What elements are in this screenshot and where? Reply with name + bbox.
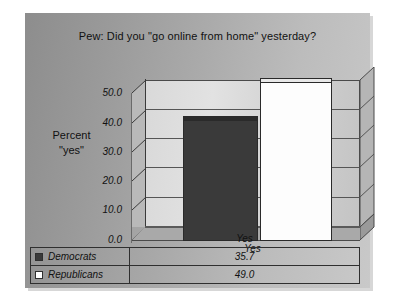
legend-item-republicans[interactable]: Republicans bbox=[31, 266, 130, 284]
table-header-row: Yes bbox=[31, 230, 360, 248]
table-header-category: Yes bbox=[130, 230, 360, 248]
value-republicans-yes: 49.0 bbox=[130, 266, 360, 284]
y-axis-ticks bbox=[130, 77, 148, 249]
data-table: Yes Democrats 35.7 Republicans 49.0 bbox=[30, 230, 360, 284]
bar-republicans-top-face bbox=[260, 78, 332, 83]
ytick-label-40: 40.0 bbox=[78, 117, 122, 128]
y-axis-title-line1: Percent bbox=[24, 128, 119, 143]
chart-title: Pew: Did you "go online from home" yeste… bbox=[25, 30, 370, 42]
ytick-label-20: 20.0 bbox=[78, 175, 122, 186]
legend-swatch-democrats-icon bbox=[35, 253, 43, 261]
chart-screenshot: Pew: Did you "go online from home" yeste… bbox=[0, 0, 396, 304]
plot-right-depth-face bbox=[359, 67, 377, 242]
table-header-blank bbox=[31, 230, 130, 248]
bar-democrats-yes[interactable] bbox=[183, 120, 258, 241]
bar-republicans-yes[interactable] bbox=[260, 82, 332, 241]
ytick-label-30: 30.0 bbox=[78, 146, 122, 157]
value-democrats-yes: 35.7 bbox=[130, 248, 360, 266]
table-row[interactable]: Democrats 35.7 bbox=[31, 248, 360, 266]
plot-area: 50.0 40.0 30.0 20.0 10.0 0.0 Yes bbox=[120, 67, 360, 227]
legend-label-republicans: Republicans bbox=[48, 269, 103, 280]
legend-item-democrats[interactable]: Democrats bbox=[31, 248, 130, 266]
chart-panel: Pew: Did you "go online from home" yeste… bbox=[25, 13, 370, 288]
legend-label-democrats: Democrats bbox=[48, 251, 96, 262]
ytick-label-10: 10.0 bbox=[78, 204, 122, 215]
table-row[interactable]: Republicans 49.0 bbox=[31, 266, 360, 284]
bar-democrats-top-face bbox=[183, 116, 258, 121]
ytick-label-50: 50.0 bbox=[78, 87, 122, 98]
legend-swatch-republicans-icon bbox=[35, 271, 43, 279]
